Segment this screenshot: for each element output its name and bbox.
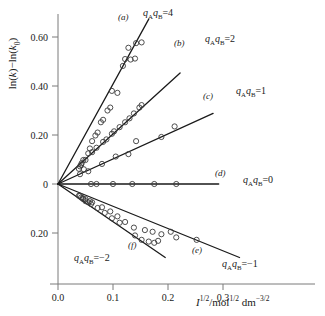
series-label-c: qAqB=1 (236, 85, 266, 98)
chart-figure: ln(k)−ln(k0) 0.600.400.2000.200.00.10.20… (0, 0, 325, 316)
series-id-c: (c) (203, 91, 213, 101)
series-label-b: qAqB=2 (205, 33, 235, 46)
series-point-group (76, 40, 199, 246)
series-label-a: qAqB=4 (143, 7, 173, 20)
series-label-d: qAqB=0 (243, 174, 273, 187)
data-point-f (117, 220, 122, 225)
series-label-f: qAqB=−2 (74, 252, 110, 265)
data-point-a (126, 45, 131, 50)
y-tick-label: 0.20 (31, 130, 49, 141)
series-line-group (58, 19, 240, 257)
data-point-a (90, 139, 95, 144)
data-point-a (109, 88, 114, 93)
series-id-d: (d) (215, 168, 226, 178)
data-point-e (108, 209, 113, 214)
data-point-e (142, 227, 147, 232)
data-point-e (123, 219, 128, 224)
tick-label-group: 0.600.400.2000.200.00.10.20.3 (31, 32, 230, 304)
data-point-f (102, 210, 107, 215)
x-axis-label: I1/2/mol1/2 dm−3/2 (196, 294, 270, 308)
plot-area: 0.600.400.2000.200.00.10.20.3 (0, 0, 325, 316)
series-id-f: (f) (128, 240, 137, 250)
series-line-a (58, 19, 149, 184)
data-point-c (172, 124, 177, 129)
data-point-e (174, 235, 179, 240)
data-point-e (150, 229, 155, 234)
series-id-a: (a) (118, 12, 129, 22)
y-tick-group (52, 37, 58, 233)
series-id-b: (b) (174, 38, 185, 48)
data-point-f (146, 239, 151, 244)
data-point-e (159, 232, 164, 237)
data-point-f (109, 216, 114, 221)
y-tick-label: 0.60 (31, 32, 49, 43)
series-id-e: (e) (192, 245, 202, 255)
series-label-e: qAqB=−1 (222, 258, 258, 271)
y-tick-label: 0.40 (31, 81, 49, 92)
data-point-a (139, 40, 144, 45)
x-tick-label: 0.0 (52, 292, 65, 303)
y-tick-label: 0 (43, 179, 48, 190)
data-point-e (131, 225, 136, 230)
x-tick-label: 0.1 (107, 292, 120, 303)
y-tick-label: 0.20 (31, 228, 49, 239)
x-tick-group (58, 284, 223, 290)
x-tick-label: 0.2 (162, 292, 175, 303)
data-point-e (115, 214, 120, 219)
data-point-a (115, 90, 120, 95)
data-point-c (134, 139, 139, 144)
series-line-c (58, 113, 213, 184)
